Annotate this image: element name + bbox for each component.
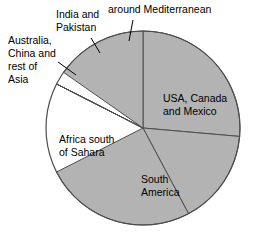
slice-label-australia-china-asia: Australia, China and rest of Asia xyxy=(8,34,59,85)
slice-label-india-pakistan: India and Pakistan xyxy=(56,8,102,33)
pie-chart-figure: USA, Canada and Mexico South America Afr… xyxy=(0,0,253,240)
pie-slice-around-mediterranean[interactable] xyxy=(64,31,143,128)
slice-label-around-mediterranean: around Mediterranean xyxy=(108,3,211,15)
pie-chart-svg: USA, Canada and Mexico South America Afr… xyxy=(0,0,253,240)
pie-slice-usa-canada-mexico[interactable] xyxy=(143,31,240,136)
